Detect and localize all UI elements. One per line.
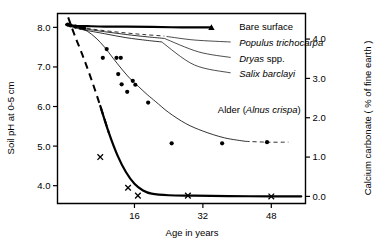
- data-point: [82, 26, 86, 30]
- leader-lines-layer: [162, 36, 230, 72]
- series-label-part: Alder (: [218, 104, 247, 115]
- left-tick-label: 4.0: [37, 180, 50, 191]
- leader-line-3: [162, 42, 230, 72]
- left-tick-label: 5.0: [37, 141, 50, 152]
- data-point: [116, 72, 120, 76]
- data-point: [133, 83, 137, 87]
- series-label-part: spp.: [264, 53, 285, 64]
- left-tick-label: 7.0: [37, 61, 50, 72]
- x-tick-label: 16: [129, 210, 140, 221]
- series-label-2: Dryas spp.: [239, 53, 284, 64]
- right-tick-label: 2.0: [313, 112, 326, 123]
- caco3-solid-segment: [100, 106, 301, 197]
- figure-container: 4.05.06.07.08.0 0.01.02.03.04.0 163248 B…: [0, 0, 383, 242]
- data-point-x: [97, 154, 103, 160]
- x-axis-title: Age in years: [166, 227, 219, 238]
- soil-ph-calcium-carbonate-chart: 4.05.06.07.08.0 0.01.02.03.04.0 163248 B…: [0, 0, 383, 242]
- data-point: [265, 140, 269, 144]
- bare-surface-curve: [66, 25, 211, 28]
- data-point: [114, 56, 118, 60]
- left-tick-label: 8.0: [37, 22, 50, 33]
- series-label-part: Populus trichocarpa: [239, 37, 323, 48]
- series-label-part: Salix barclayi: [239, 68, 296, 79]
- data-point: [105, 47, 109, 51]
- series-label-0: Bare surface: [239, 21, 293, 32]
- right-axis-ticks: 0.01.02.03.04.0: [306, 33, 326, 201]
- data-point: [220, 141, 224, 145]
- series-label-4: Alder (Alnus crispa): [218, 104, 301, 115]
- data-point-x: [135, 193, 141, 199]
- x-axis-ticks: 163248: [129, 204, 276, 221]
- y-axis-title: Soil pH at 0-5 cm: [5, 81, 16, 154]
- series-label-part: Bare surface: [239, 21, 293, 32]
- data-point: [120, 82, 124, 86]
- x-tick-label: 48: [266, 210, 277, 221]
- data-point: [131, 79, 135, 83]
- data-point: [170, 141, 174, 145]
- series-label-3: Salix barclayi: [239, 68, 296, 79]
- y2-axis-title: Calcium carbonate ( % of fine earth ): [362, 41, 373, 196]
- data-point: [101, 56, 105, 60]
- right-tick-label: 1.0: [313, 151, 326, 162]
- series-label-part: ): [298, 104, 301, 115]
- data-point: [68, 23, 72, 27]
- right-tick-label: 0.0: [313, 191, 326, 202]
- leader-line-1: [167, 36, 231, 42]
- series-label-part: Dryas: [239, 53, 264, 64]
- x-tick-label: 32: [198, 210, 209, 221]
- series-label-1: Populus trichocarpa: [239, 37, 323, 48]
- data-point: [146, 100, 150, 104]
- alder-curve: [70, 25, 245, 141]
- left-tick-label: 6.0: [37, 101, 50, 112]
- data-point-x: [125, 185, 131, 191]
- data-point: [119, 56, 123, 60]
- data-point: [73, 24, 77, 28]
- right-tick-label: 3.0: [313, 73, 326, 84]
- series-labels-layer: Bare surfacePopulus trichocarpaDryas spp…: [218, 21, 323, 115]
- series-label-part: Alnus crispa: [245, 104, 298, 115]
- data-point: [125, 90, 129, 94]
- left-axis-ticks: 4.05.06.07.08.0: [37, 22, 57, 191]
